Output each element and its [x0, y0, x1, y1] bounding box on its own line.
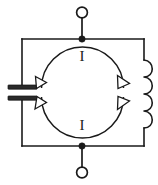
current-label-bottom: I	[80, 117, 85, 133]
bottom-terminal-circle-icon	[77, 167, 88, 178]
inductor-coil	[144, 60, 152, 128]
top-junction-dot-icon	[79, 36, 85, 42]
top-terminal	[77, 7, 88, 42]
top-arc-right-arrowhead-icon	[118, 76, 130, 89]
capacitor	[8, 85, 37, 100]
bottom-arc-right-arrowhead-icon	[118, 97, 130, 110]
bottom-arc-left-arrowhead-icon	[35, 97, 47, 110]
circuit-svg-canvas: I I	[0, 0, 158, 185]
capacitor-plate-bottom	[8, 96, 37, 100]
bottom-terminal	[77, 143, 88, 178]
top-terminal-circle-icon	[77, 7, 88, 18]
current-label-top: I	[80, 48, 85, 64]
bottom-junction-dot-icon	[79, 143, 85, 149]
circuit-diagram: I I	[0, 0, 158, 185]
capacitor-plate-top	[8, 85, 37, 89]
inductor	[144, 60, 152, 128]
